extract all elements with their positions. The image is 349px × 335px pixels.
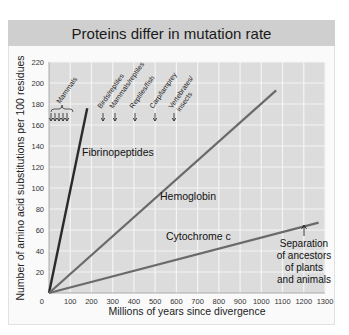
y-tick-label: 80 — [36, 205, 44, 214]
line-chart: 020406080100120140160180200220 100200300… — [0, 0, 349, 335]
x-tick-label: 1200 — [295, 297, 312, 306]
y-tick-label: 20 — [36, 268, 44, 277]
x-tick-label: 100 — [64, 297, 77, 306]
hemoglobin-label: Hemoglobin — [160, 190, 216, 202]
y-tick-label: 220 — [31, 58, 44, 67]
y-axis-ticks: 020406080100120140160180200220 — [31, 58, 44, 306]
y-tick-label: 40 — [36, 247, 44, 256]
y-tick-label: 100 — [31, 184, 44, 193]
separation-label-4: and animals — [277, 274, 331, 285]
cytochrome-c-label: Cytochrome c — [166, 230, 231, 242]
y-tick-label: 200 — [31, 79, 44, 88]
fibrinopeptides-label: Fibrinopeptides — [82, 146, 154, 158]
y-tick-label: 160 — [31, 121, 44, 130]
x-axis-label: Millions of years since divergence — [109, 305, 266, 317]
x-tick-label: 200 — [85, 297, 98, 306]
x-tick-label: 1100 — [274, 297, 290, 306]
separation-label-2: of ancestors — [277, 250, 331, 261]
separation-label-3: of plants — [285, 262, 323, 273]
y-tick-label: 0 — [40, 297, 44, 306]
separation-label-1: Separation — [280, 238, 328, 249]
y-tick-label: 120 — [31, 163, 44, 172]
y-tick-label: 140 — [31, 142, 44, 151]
y-axis-label: Number of amino acid substitutions per 1… — [14, 55, 26, 300]
x-tick-label: 1300 — [317, 297, 334, 306]
y-tick-label: 60 — [36, 226, 44, 235]
y-tick-label: 180 — [31, 100, 44, 109]
